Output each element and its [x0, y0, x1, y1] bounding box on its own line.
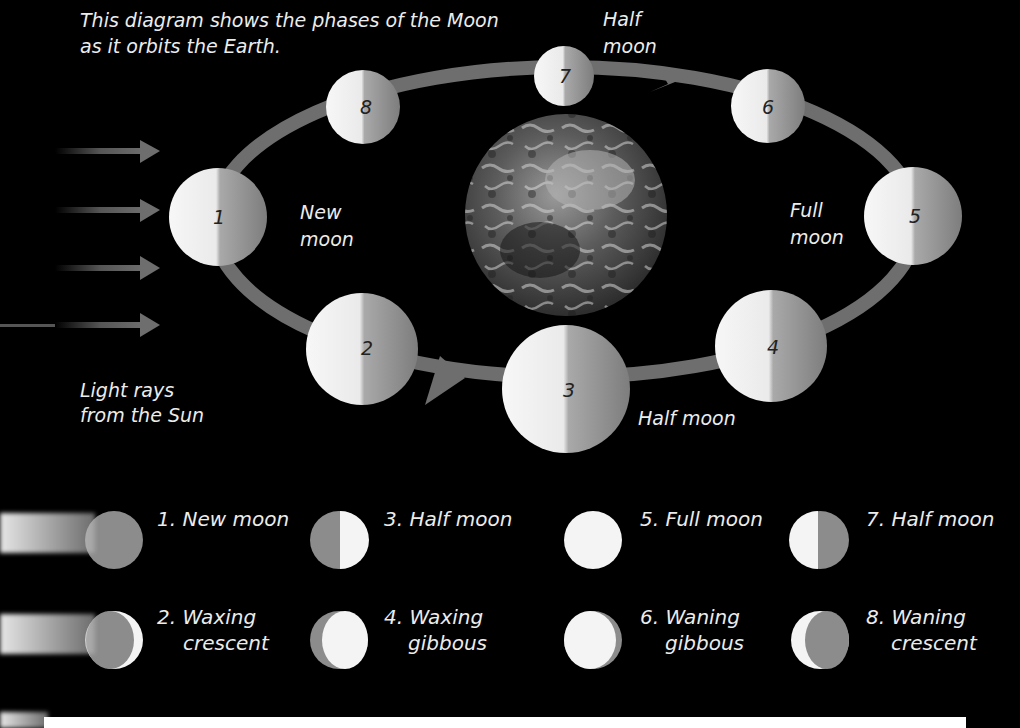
moon-number-1: 1: [204, 206, 234, 228]
legend-icon-waning-gibbous: [564, 611, 622, 669]
caption-line-2: as it orbits the Earth.: [80, 34, 281, 58]
legend-label-4-line-2: gibbous: [408, 631, 487, 656]
moon-number-8: 8: [351, 96, 381, 118]
label-new-moon-line-1: New: [300, 200, 341, 224]
label-half-moon-top-line-1: Half: [603, 7, 641, 31]
bottom-page-strip: [44, 717, 966, 728]
label-new-moon-line-2: moon: [300, 227, 354, 251]
legend-label-8-line-1: 8. Waning: [866, 605, 966, 630]
legend-label-1: 1. New moon: [157, 507, 289, 532]
ray-arrow-4: [0, 313, 160, 337]
moon-number-5: 5: [900, 205, 930, 227]
label-half-moon-bottom: Half moon: [638, 406, 736, 430]
light-rays-label-line-2: from the Sun: [80, 403, 204, 427]
legend-label-8-line-2: crescent: [891, 631, 977, 656]
ray-arrow-3: [55, 256, 160, 280]
legend-label-2-line-2: crescent: [183, 631, 269, 656]
legend-icon-half-moon-waning: [789, 511, 849, 569]
legend-icon-full-moon: [564, 511, 622, 569]
legend-label-2-line-1: 2. Waxing: [157, 605, 256, 630]
light-rays-label-line-1: Light rays: [80, 378, 174, 402]
earth: [465, 114, 667, 316]
moon-number-3: 3: [554, 379, 584, 401]
ray-arrow-1: [55, 140, 160, 163]
left-edge-glow-2: [0, 614, 95, 654]
moon-number-6: 6: [753, 96, 783, 118]
caption-line-1: This diagram shows the phases of the Moo…: [80, 8, 499, 32]
legend-label-6-line-2: gibbous: [665, 631, 744, 656]
label-full-moon-line-1: Full: [790, 198, 823, 222]
legend-label-6-line-1: 6. Waning: [640, 605, 740, 630]
label-half-moon-top-line-2: moon: [603, 34, 657, 58]
light-rays: [0, 140, 160, 337]
moon-number-4: 4: [758, 336, 788, 358]
legend-icon-waning-crescent: [791, 611, 849, 669]
left-edge-glow-3: [0, 712, 48, 728]
ray-arrow-2: [55, 199, 160, 222]
moon-number-7: 7: [550, 65, 580, 87]
left-edge-glow-1: [0, 513, 95, 553]
legend-label-7: 7. Half moon: [866, 507, 994, 532]
legend-label-4-line-1: 4. Waxing: [384, 605, 483, 630]
moon-number-2: 2: [352, 337, 382, 359]
label-full-moon-line-2: moon: [790, 225, 844, 249]
legend-icon-half-moon-waxing: [310, 511, 369, 569]
legend-label-5: 5. Full moon: [640, 507, 763, 532]
legend-label-3: 3. Half moon: [384, 507, 512, 532]
legend-icon-waxing-gibbous: [310, 611, 368, 669]
